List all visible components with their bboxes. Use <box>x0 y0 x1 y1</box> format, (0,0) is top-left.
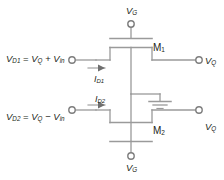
id2-sub: D2 <box>98 98 106 104</box>
label-vd1-equation: VD1 = VQ + Vin <box>6 54 65 64</box>
terminal-input-vd1 <box>69 57 75 63</box>
vd1-equals: = <box>23 53 29 64</box>
vd2-operator: − <box>45 111 51 122</box>
vq-top-sub: Q <box>211 59 216 66</box>
m2-sub: 2 <box>161 129 165 136</box>
schematic-canvas <box>0 0 224 180</box>
circuit-diagram: VD1 = VQ + Vin VD2 = VQ − Vin VG VG VQ V… <box>0 0 224 180</box>
vd2-var-sub: D2 <box>12 115 20 122</box>
label-vq-top: VQ <box>205 56 216 66</box>
vd1-term2-sub: in <box>60 57 65 64</box>
vd1-var-sub: D1 <box>12 57 20 64</box>
label-vq-bottom: VQ <box>205 122 216 132</box>
vg-bottom-sub: G <box>132 166 137 173</box>
terminal-input-vd2 <box>69 107 75 113</box>
label-vg-bottom: VG <box>126 163 137 173</box>
vd2-term2-sub: in <box>60 115 65 122</box>
current-arrow-id1-head <box>98 65 105 72</box>
terminal-output-vq-top <box>196 57 202 63</box>
terminal-output-vq-bottom <box>196 107 202 113</box>
id1-sub: D1 <box>97 78 105 84</box>
terminal-gate-bottom <box>128 153 134 159</box>
label-current-id1: ID1 <box>94 75 104 84</box>
label-transistor-m2: M2 <box>153 126 165 137</box>
label-vg-top: VG <box>126 6 137 16</box>
terminal-gate-top <box>128 21 134 27</box>
vd1-term1-sub: Q <box>38 57 43 64</box>
vq-bottom-sub: Q <box>211 125 216 132</box>
label-transistor-m1: M1 <box>153 43 165 54</box>
vg-top-sub: G <box>132 9 137 16</box>
vd2-equals: = <box>23 111 29 122</box>
vd2-term1-sub: Q <box>38 115 43 122</box>
label-vd2-equation: VD2 = VQ − Vin <box>6 112 65 122</box>
label-current-id2: ID2 <box>95 95 105 104</box>
m1-sub: 1 <box>161 46 165 53</box>
vd1-operator: + <box>45 53 51 64</box>
